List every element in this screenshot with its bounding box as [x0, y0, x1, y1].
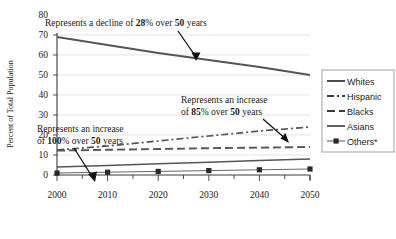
chart-canvas: 80 70 60 50 40 30 20 10 0 2000 2010 2020…	[0, 0, 396, 239]
annotation-hispanic-arrow-head	[281, 133, 290, 143]
series-asians	[57, 159, 310, 167]
series-line-asians	[57, 159, 310, 167]
annotation-asians-increase: Represents an increase of 100% over 50 y…	[37, 124, 124, 182]
y-tick-labels: 80 70 60 50 40 30 20 10 0	[39, 10, 49, 180]
series-line-blacks	[57, 147, 310, 151]
y-tick-label-0: 0	[43, 170, 48, 180]
annotation-hispanic-increase: Represents an increase of 85% over 50 ye…	[181, 95, 289, 143]
legend-label-asians: Asians	[347, 122, 375, 132]
annotation-hispanic-line1: Represents an increase	[181, 95, 268, 105]
series-line-whites	[57, 37, 310, 75]
x-tick-label-2050: 2050	[301, 190, 320, 200]
y-axis-title: Percent of Total Population	[6, 60, 15, 148]
x-tick-label-2010: 2010	[98, 190, 117, 200]
annotation-asians-line1: Represents an increase	[37, 124, 124, 134]
legend-label-others: Others*	[347, 137, 378, 147]
y-tick-label-40: 40	[39, 90, 49, 100]
y-tick-label-30: 30	[39, 110, 49, 120]
annotation-whites-decline-text: Represents a decline of 28% over 50 year…	[45, 18, 207, 28]
x-tick-label-2040: 2040	[250, 190, 269, 200]
series-whites	[57, 37, 310, 75]
y-tick-label-70: 70	[39, 30, 49, 40]
x-tick-label-2020: 2020	[149, 190, 168, 200]
y-tick-marks	[53, 35, 57, 175]
y-tick-label-60: 60	[39, 50, 49, 60]
legend: Whites Hispanic Blacks Asians Others*	[322, 70, 394, 152]
y-tick-label-10: 10	[39, 150, 49, 160]
legend-swatch-others-marker	[334, 138, 339, 143]
legend-label-hispanic: Hispanic	[347, 92, 382, 102]
x-tick-label-2000: 2000	[48, 190, 67, 200]
legend-label-blacks: Blacks	[347, 107, 374, 117]
annotation-asians-line2: of 100% over 50 years	[37, 136, 123, 146]
legend-label-whites: Whites	[347, 77, 375, 87]
series-blacks	[57, 147, 310, 151]
annotation-hispanic-line2: of 85% over 50 years	[181, 107, 263, 117]
population-projection-chart: 80 70 60 50 40 30 20 10 0 2000 2010 2020…	[0, 0, 396, 239]
annotation-whites-arrow-head	[192, 53, 201, 62]
x-tick-label-2030: 2030	[199, 190, 218, 200]
y-tick-label-50: 50	[39, 70, 49, 80]
x-tick-labels: 2000 2010 2020 2030 2040 2050	[48, 190, 320, 200]
